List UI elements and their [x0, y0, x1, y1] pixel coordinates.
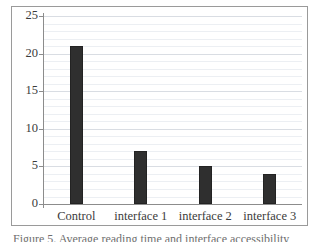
x-tick-label: interface 1	[114, 210, 167, 223]
bar	[70, 46, 83, 204]
plot-area	[44, 16, 302, 204]
y-tick-label: 20	[26, 47, 39, 60]
y-tick-mark	[39, 166, 43, 167]
x-tick-label: interface 2	[179, 210, 232, 223]
y-tick-label: 25	[26, 9, 39, 22]
figure-container: 0510152025 Controlinterface 1interface 2…	[0, 0, 320, 242]
x-tick-label: Control	[57, 210, 95, 223]
bar	[263, 174, 276, 204]
x-axis-tick-labels: Controlinterface 1interface 2interface 3	[44, 210, 302, 228]
y-tick-label: 10	[26, 122, 39, 135]
y-tick-label: 15	[26, 84, 39, 97]
chart-frame: 0510152025 Controlinterface 1interface 2…	[11, 6, 308, 226]
y-axis-tick-labels: 0510152025	[12, 7, 38, 225]
bar	[134, 151, 147, 204]
x-tick-label: interface 3	[243, 210, 296, 223]
figure-caption: Figure 5. Average reading time and inter…	[13, 232, 313, 242]
bar	[199, 166, 212, 204]
y-tick-mark	[39, 91, 43, 92]
x-axis-line	[43, 204, 302, 205]
y-tick-label: 5	[32, 159, 38, 172]
y-axis-line	[43, 13, 44, 208]
y-tick-label: 0	[32, 197, 38, 210]
bar-series	[44, 16, 302, 204]
y-tick-mark	[39, 16, 43, 17]
y-tick-mark	[39, 129, 43, 130]
y-tick-mark	[39, 204, 43, 205]
y-tick-mark	[39, 54, 43, 55]
